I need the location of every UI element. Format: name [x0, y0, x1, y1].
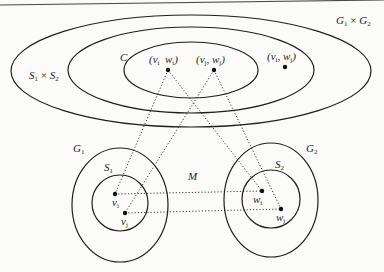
label-s2: S2	[275, 159, 284, 172]
dotted-edge-vj_wj-wj	[214, 70, 281, 209]
label-pair-vi-wj: (vi, wj)	[267, 51, 296, 64]
label-part: G	[359, 14, 367, 26]
point-vi-wj	[283, 65, 287, 69]
label-pair-vi-wi: (vi wi)	[149, 54, 178, 67]
label-part: G	[73, 142, 81, 154]
label-wi: wi	[253, 194, 262, 207]
label-sub: i	[117, 202, 119, 210]
label-m: M	[188, 171, 197, 182]
label-part: G	[306, 142, 314, 154]
label-s1: S1	[104, 162, 113, 175]
ellipse-g2	[224, 143, 318, 257]
point-vi-wi	[166, 68, 170, 72]
label-sub: i	[260, 199, 262, 207]
label-vj: vj	[121, 216, 128, 229]
label-pair-vj-wj: (vj, wj)	[196, 54, 225, 67]
label-sub: 2	[314, 148, 318, 156]
dotted-edge-vj_wj-vj	[125, 70, 214, 213]
dotted-edge-vj-wj	[125, 209, 281, 213]
ellipse-s2	[242, 170, 300, 228]
label-part: M	[188, 170, 197, 182]
label-sub: 1	[81, 148, 85, 156]
point-wi	[260, 189, 264, 193]
label-part: (v	[267, 50, 276, 62]
label-sub: j	[126, 221, 128, 229]
label-g1-times-g2: G1 × G2	[336, 15, 371, 28]
dotted-edge-vi_wi-wi	[168, 70, 262, 191]
label-vi: vi	[112, 197, 119, 210]
dotted-edges	[115, 70, 281, 213]
ellipse-c	[124, 42, 258, 98]
label-sub: 1	[110, 167, 114, 175]
ellipse-s1xs2	[68, 27, 314, 113]
label-op: ×	[347, 14, 359, 26]
diagram-svg	[0, 0, 384, 272]
ellipse-g1xg2	[11, 15, 371, 127]
label-sub: 2	[281, 164, 285, 172]
label-s1-times-s2: S1 × S2	[29, 70, 59, 83]
label-sub: 2	[55, 75, 59, 83]
label-part: G	[336, 14, 344, 26]
label-sub: 2	[367, 20, 371, 28]
label-g2: G2	[306, 143, 317, 156]
label-part: (v	[149, 53, 158, 65]
label-part: C	[120, 51, 127, 63]
label-part: )	[221, 53, 225, 65]
label-part: , w	[207, 53, 220, 65]
label-part: )	[292, 50, 296, 62]
label-op: ×	[38, 69, 50, 81]
ellipse-g1	[72, 148, 168, 262]
label-part: )	[174, 53, 178, 65]
label-part: w	[160, 53, 173, 65]
dotted-edge-vi-wi	[115, 191, 262, 194]
ellipse-s1	[92, 175, 148, 231]
diagram-canvas: G1 × G2 S1 × S2 C (vi wi) (vj, wj) (vi, …	[0, 0, 384, 272]
label-part: (v	[196, 53, 205, 65]
label-c: C	[120, 52, 127, 63]
label-g1: G1	[73, 143, 84, 156]
label-sub: j	[283, 217, 285, 225]
label-wj: wj	[276, 212, 285, 225]
top-rule	[0, 0, 384, 5]
label-part: , w	[278, 50, 291, 62]
point-vj-wj	[212, 68, 216, 72]
set-ellipses	[11, 15, 371, 262]
